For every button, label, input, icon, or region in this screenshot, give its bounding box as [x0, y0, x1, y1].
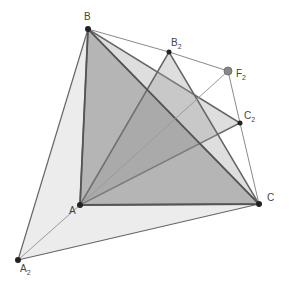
point-c2[interactable]: [238, 121, 243, 126]
point-c[interactable]: [256, 201, 262, 207]
point-b2[interactable]: [167, 50, 172, 55]
label-b2: B2: [171, 38, 182, 50]
label-c: C: [267, 193, 274, 203]
label-c2: C2: [244, 111, 255, 123]
point-f2[interactable]: [224, 67, 232, 75]
label-a2: A2: [20, 264, 31, 276]
geometry-canvas: [0, 0, 289, 285]
point-b[interactable]: [85, 26, 91, 32]
label-a: A: [69, 206, 76, 216]
point-a[interactable]: [77, 202, 83, 208]
label-b: B: [84, 12, 91, 22]
label-f2: F2: [236, 69, 246, 81]
